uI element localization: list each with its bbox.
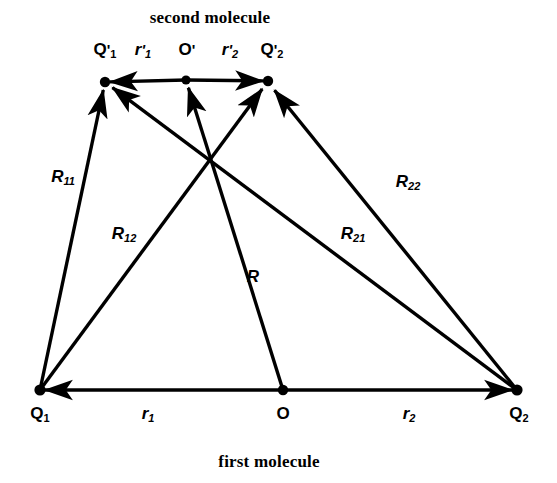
node-label-Qprime2-sub: 2: [277, 48, 283, 60]
vector-label-R11-sub: 11: [63, 175, 74, 187]
vector-label-R22: R22: [396, 173, 421, 190]
caption-second-molecule: second molecule: [150, 8, 271, 28]
vector-label-R12-sub: 12: [124, 232, 136, 244]
vector-line-rprime1: [110, 80, 186, 82]
node-label-Q2-base: Q: [509, 404, 522, 423]
vector-label-rprime1-sub: 1: [145, 48, 151, 60]
node-label-Qprime1-sub: 1: [110, 48, 116, 60]
vector-label-R11: R11: [51, 168, 75, 185]
vector-label-R22-sub: 22: [408, 180, 420, 192]
node-label-Qprime1-base: Q: [94, 40, 107, 59]
vector-label-R: R: [247, 268, 259, 285]
node-label-Oprime-base: O: [179, 40, 192, 59]
node-label-Oprime-prime: ': [192, 41, 196, 58]
node-dot-O: [278, 385, 288, 395]
node-dot-Q1: [34, 384, 45, 395]
vector-label-rprime2-sub: 2: [232, 48, 238, 60]
node-dot-Q2: [511, 384, 522, 395]
vector-label-R11-base: R: [51, 167, 63, 186]
vector-label-rprime1: r'1: [135, 41, 151, 58]
node-dot-Qp1: [100, 77, 110, 87]
node-label-Qprime1: Q'1: [94, 41, 117, 58]
vector-label-r2-sub: 2: [409, 412, 415, 424]
node-label-O-base: O: [276, 404, 289, 423]
vector-line-R: [188, 88, 283, 390]
vector-label-R21-base: R: [341, 224, 353, 243]
vector-label-R21-sub: 21: [353, 232, 365, 244]
vector-line-R21: [113, 88, 518, 390]
vector-label-rprime2: r'2: [222, 41, 238, 58]
vector-label-R21: R21: [341, 225, 366, 242]
vector-label-rprime2-base: r: [222, 40, 229, 59]
vector-line-R22: [275, 90, 518, 390]
node-label-Qprime2: Q'2: [261, 41, 284, 58]
node-label-Q1-sub: 1: [44, 412, 50, 424]
molecule-interaction-diagram: second molecule first molecule Q'1 O' Q'…: [0, 0, 557, 483]
vector-label-R12: R12: [112, 225, 137, 242]
vector-label-R-base: R: [247, 267, 259, 286]
vector-label-rprime1-base: r: [135, 40, 142, 59]
node-label-O: O: [276, 405, 289, 422]
node-label-Q1: Q1: [30, 405, 49, 422]
vector-label-r2: r2: [403, 405, 416, 422]
node-label-Qprime2-base: Q: [261, 40, 274, 59]
node-dots: [34, 75, 522, 395]
vector-label-r1: r1: [142, 405, 155, 422]
node-label-Q1-base: Q: [30, 404, 43, 423]
node-label-Q2: Q2: [509, 405, 528, 422]
vector-label-r2-base: r: [403, 404, 410, 423]
node-label-Q2-sub: 2: [523, 412, 529, 424]
vector-label-R22-base: R: [396, 172, 408, 191]
vector-line-rprime2: [186, 80, 263, 81]
vector-label-r1-sub: 1: [148, 412, 154, 424]
node-dot-Qp2: [263, 76, 273, 86]
node-label-Oprime: O': [179, 41, 196, 58]
node-dot-Op: [181, 75, 190, 84]
vector-label-R12-base: R: [112, 224, 124, 243]
vector-label-r1-base: r: [142, 404, 149, 423]
caption-first-molecule: first molecule: [218, 452, 319, 472]
